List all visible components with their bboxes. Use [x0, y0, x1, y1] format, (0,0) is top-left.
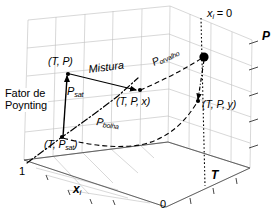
label-state-TP: (T, P) [48, 56, 73, 67]
marker-state-TP [66, 72, 70, 76]
axis-ticks [46, 41, 258, 205]
axis-label-pressure: P [262, 30, 270, 43]
marker-state-TPx [138, 88, 142, 92]
back-right-wall-grid [168, 6, 252, 168]
label-state-TPy: (T, P, y) [202, 99, 236, 110]
p-orvalho-curve [140, 57, 204, 90]
label-xi-zero: xi = 0 [207, 8, 232, 20]
axis-label-composition: xi [73, 183, 81, 197]
phase-diagram-figure: xi = 0 P (T, P) Mistura Porvalho Fator d… [0, 0, 280, 222]
label-state-TPx: (T, P, x) [116, 96, 150, 107]
label-state-T-Psat: (T, Psat) [44, 139, 77, 151]
back-left-wall-grid [24, 6, 170, 160]
marker-state-TPy [196, 99, 200, 103]
marker-pure-component-point [199, 52, 208, 61]
tick-label-composition-max: 1 [19, 166, 25, 178]
axis-label-temperature: T [211, 169, 218, 182]
label-p-sat: Psat [67, 86, 83, 98]
tick-label-composition-min: 0 [160, 199, 166, 211]
poynting-line-2: Poynting [5, 100, 47, 112]
label-fator-de-poynting: Fator de Poynting [4, 88, 48, 112]
